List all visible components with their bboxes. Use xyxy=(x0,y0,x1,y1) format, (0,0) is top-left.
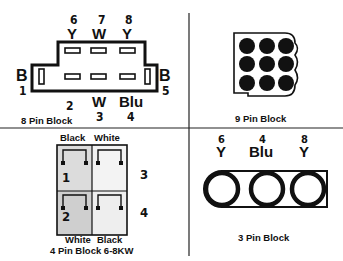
three-pin-color-8: Y xyxy=(299,144,309,159)
three-pin-color-4: Blu xyxy=(249,144,273,159)
three-pin-connector-icon xyxy=(0,0,343,261)
three-pin-color-6: Y xyxy=(216,144,226,159)
three-pin-caption: 3 Pin Block xyxy=(238,233,289,243)
